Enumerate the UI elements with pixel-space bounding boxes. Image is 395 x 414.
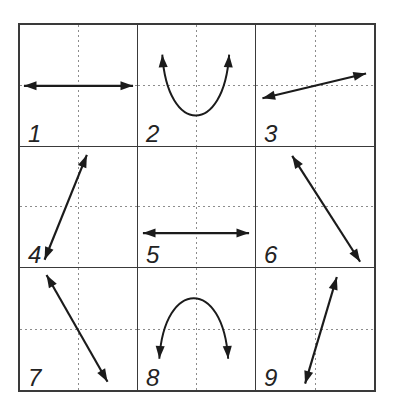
- arrowhead-icon: [120, 81, 133, 90]
- arrow-shaft: [45, 155, 87, 260]
- cell-number: 4: [28, 243, 41, 267]
- arrowhead-icon: [24, 81, 37, 90]
- cell-9: 9: [256, 268, 374, 390]
- arrow-shaft: [305, 277, 337, 384]
- arrow-shaft: [292, 156, 360, 262]
- cell-number: 2: [146, 122, 159, 146]
- arrowhead-icon: [78, 153, 91, 168]
- arrow-shaft: [162, 55, 229, 116]
- arrowhead-icon: [288, 153, 303, 169]
- arrowhead-icon: [40, 246, 53, 261]
- arrowhead-icon: [261, 91, 275, 103]
- arrowhead-icon: [223, 346, 233, 359]
- worksheet-page: 123456789: [0, 0, 395, 414]
- cell-number: 5: [146, 243, 159, 267]
- arrow-grid-figure: 123456789: [18, 23, 376, 392]
- cell-5: 5: [138, 147, 256, 269]
- arrowhead-icon: [349, 248, 364, 264]
- cell-4: 4: [20, 147, 138, 269]
- arrowhead-icon: [97, 369, 111, 385]
- cell-number: 6: [264, 243, 277, 267]
- arrowhead-icon: [158, 54, 168, 67]
- cell-number: 7: [28, 366, 41, 390]
- arrowhead-icon: [155, 346, 165, 359]
- arrowhead-icon: [329, 276, 341, 291]
- cell-number: 8: [146, 366, 159, 390]
- arrowhead-icon: [43, 273, 57, 289]
- cell-7: 7: [20, 268, 138, 390]
- arrowhead-icon: [224, 54, 234, 67]
- arrowhead-icon: [143, 228, 156, 237]
- cell-number: 9: [264, 366, 277, 390]
- arrow-shaft: [262, 73, 366, 98]
- arrowhead-icon: [237, 228, 250, 237]
- cell-number: 3: [264, 122, 277, 146]
- arrowhead-icon: [353, 69, 367, 81]
- cell-6: 6: [256, 147, 374, 269]
- arrowhead-icon: [301, 370, 313, 385]
- cell-number: 1: [28, 122, 41, 146]
- cell-1: 1: [20, 25, 138, 147]
- cell-8: 8: [138, 268, 256, 390]
- cell-2: 2: [138, 25, 256, 147]
- arrow-shaft: [159, 298, 228, 359]
- arrow-shaft: [47, 275, 108, 382]
- cell-3: 3: [256, 25, 374, 147]
